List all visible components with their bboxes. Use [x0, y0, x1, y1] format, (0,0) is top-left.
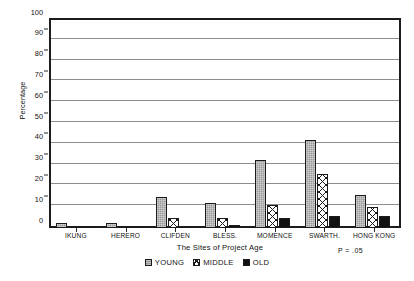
y-axis-minor-tick: [44, 91, 48, 92]
legend-swatch-icon: [145, 259, 152, 266]
bar-group: [349, 20, 399, 228]
bar-middle: [168, 218, 179, 228]
bar-young: [205, 203, 216, 228]
y-axis-minor-tick: [44, 70, 48, 71]
bar-young: [305, 140, 316, 228]
y-axis-tick-label: 50: [35, 113, 43, 120]
x-axis-tick-label: HERERO: [111, 232, 140, 239]
legend-item-young: YOUNG: [145, 258, 184, 267]
legend-swatch-icon: [193, 259, 200, 266]
legend-label: OLD: [253, 258, 270, 267]
bar-group: [250, 20, 300, 228]
y-axis-ticks: 0102030405060708090100: [0, 18, 49, 228]
y-axis-tick-label: 20: [35, 175, 43, 182]
bar-group: [101, 20, 151, 228]
bar-group: [150, 20, 200, 228]
x-axis-tick-label: SWARTH.: [309, 232, 340, 239]
x-axis-tick-label: CLIFDEN: [161, 232, 190, 239]
bar-group: [300, 20, 350, 228]
x-axis-tick-label: BLESS.: [213, 232, 237, 239]
y-axis-minor-tick: [44, 195, 48, 196]
chart-legend: YOUNGMIDDLEOLD: [0, 258, 414, 267]
bar-group: [51, 20, 101, 228]
bar-middle: [367, 207, 378, 228]
y-axis-minor-tick: [44, 112, 48, 113]
y-axis-minor-tick: [44, 174, 48, 175]
x-axis-tick-label: HONG KONG: [353, 232, 395, 239]
y-axis-tick-label: 10: [35, 196, 43, 203]
y-axis-tick-label: 70: [35, 71, 43, 78]
y-axis-minor-tick: [44, 154, 48, 155]
bar-chart: Percentage 0102030405060708090100 IKUNGH…: [0, 0, 414, 281]
y-axis-minor-tick: [44, 50, 48, 51]
legend-item-middle: MIDDLE: [193, 258, 234, 267]
bar-old: [279, 218, 290, 228]
p-value-annotation: P = .05: [338, 247, 363, 254]
y-axis-tick-label: 60: [35, 92, 43, 99]
bar-old: [379, 216, 390, 228]
x-axis-tick-label: IKUNG: [65, 232, 87, 239]
x-axis-title: The Sites of Project Age: [110, 243, 330, 252]
bar-group: [200, 20, 250, 228]
legend-label: YOUNG: [155, 258, 184, 267]
y-axis-tick-label: 0: [39, 217, 43, 224]
bar-middle: [217, 218, 228, 228]
y-axis-tick-label: 100: [31, 9, 43, 16]
y-axis-tick-label: 40: [35, 134, 43, 141]
legend-swatch-icon: [243, 259, 250, 266]
y-axis-minor-tick: [44, 29, 48, 30]
y-axis-tick-label: 90: [35, 30, 43, 37]
x-axis-tick-label: MOMENCE: [257, 232, 292, 239]
bar-young: [156, 197, 167, 228]
bar-middle: [267, 205, 278, 228]
y-axis-tick-label: 30: [35, 155, 43, 162]
y-axis-tick-label: 80: [35, 51, 43, 58]
y-axis-minor-tick: [44, 133, 48, 134]
bar-young: [255, 160, 266, 228]
bar-young: [355, 195, 366, 228]
legend-label: MIDDLE: [203, 258, 234, 267]
bars-layer: [51, 20, 399, 228]
legend-item-old: OLD: [243, 258, 270, 267]
bar-middle: [317, 174, 328, 228]
bar-old: [329, 216, 340, 228]
